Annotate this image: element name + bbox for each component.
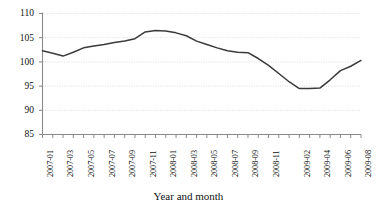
chart-canvas xyxy=(0,0,377,212)
x-axis-tick-label: 2007-03 xyxy=(66,150,75,177)
x-axis-tick-label: 2009-08 xyxy=(364,150,373,177)
line-chart: 859095100105110 2007-012007-032007-05200… xyxy=(0,0,377,212)
x-axis-tick-label: 2009-04 xyxy=(323,150,332,177)
x-axis-tick-label: 2008-07 xyxy=(231,150,240,177)
x-axis-tick-label: 2007-09 xyxy=(128,150,137,177)
x-axis-tick-label: 2008-05 xyxy=(210,150,219,177)
x-axis-tick-label: 2008-03 xyxy=(190,150,199,177)
y-axis-tick-label: 110 xyxy=(8,8,34,18)
x-axis-tick-label: 2008-11 xyxy=(272,150,281,177)
x-axis-title: Year and month xyxy=(0,190,377,202)
y-axis-tick-label: 90 xyxy=(8,105,34,115)
x-axis-tick-label: 2007-05 xyxy=(87,150,96,177)
x-axis-tick-label: 2007-11 xyxy=(149,150,158,177)
x-axis-tick-label: 2007-07 xyxy=(108,150,117,177)
x-axis-tick-label: 2009-06 xyxy=(344,150,353,177)
x-axis-tick-label: 2008-09 xyxy=(251,150,260,177)
y-axis-tick-label: 100 xyxy=(8,57,34,67)
x-axis-tick-label: 2007-01 xyxy=(46,150,55,177)
y-axis-tick-label: 105 xyxy=(8,33,34,43)
y-axis-tick-label: 85 xyxy=(8,129,34,139)
x-axis-tick-label: 2008-01 xyxy=(169,150,178,177)
x-axis-tick-label: 2009-02 xyxy=(303,150,312,177)
y-axis-tick-label: 95 xyxy=(8,81,34,91)
data-series-line xyxy=(43,30,362,88)
